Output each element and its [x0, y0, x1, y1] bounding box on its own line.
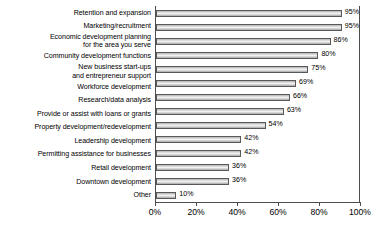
category-label-line: Other [134, 191, 152, 199]
category-label: Community development functions [0, 50, 154, 64]
x-axis-tick [319, 202, 320, 206]
category-label: Permitting assistance for businesses [0, 148, 154, 162]
category-label-line: Downtown development [76, 178, 151, 186]
bar-value-label: 10% [179, 191, 193, 198]
bar-row: 10% [156, 188, 359, 202]
bar-row: 36% [156, 160, 359, 174]
category-label: Research/data analysis [0, 94, 154, 108]
bar-row: 36% [156, 174, 359, 188]
bar [156, 24, 342, 31]
bar-value-label: 75% [311, 65, 325, 72]
category-label: Property development/redevelopment [0, 121, 154, 135]
category-label-line: Leadership development [74, 137, 151, 145]
bar-value-label: 69% [299, 79, 313, 86]
bar-row: 86% [156, 34, 359, 48]
bar-value-label: 63% [287, 107, 301, 114]
bar-row: 95% [156, 6, 359, 20]
bar-value-label: 80% [321, 51, 335, 58]
bar [156, 122, 266, 129]
bar [156, 136, 241, 143]
bar-row: 69% [156, 76, 359, 90]
bar-row: 95% [156, 20, 359, 34]
category-axis-labels: Retention and expansionMarketing/recruit… [0, 6, 154, 202]
category-label: Other [0, 188, 154, 202]
category-label-line: Provide or assist with loans or grants [37, 110, 151, 118]
bar-row: 75% [156, 62, 359, 76]
category-label-line: Retention and expansion [74, 9, 151, 17]
category-label-line: Research/data analysis [78, 96, 151, 104]
category-label-line: and entrepreneur support [72, 72, 151, 80]
bar [156, 38, 331, 45]
x-axis-tick [196, 202, 197, 206]
bar [156, 164, 229, 171]
plot-area: 95%95%86%80%75%69%66%63%54%42%42%36%36%1… [155, 6, 360, 202]
x-axis-tick-label: 0% [149, 207, 161, 218]
category-label-line: New business start-ups [78, 63, 151, 71]
bar-row: 80% [156, 48, 359, 62]
bar-value-label: 36% [232, 163, 246, 170]
category-label-line: Economic development planning [50, 33, 151, 41]
horizontal-bar-chart: Retention and expansionMarketing/recruit… [0, 0, 390, 236]
category-label: New business start-upsand entrepreneur s… [0, 63, 154, 80]
bar-value-label: 42% [244, 149, 258, 156]
bar-value-label: 42% [244, 135, 258, 142]
bar-value-label: 66% [293, 93, 307, 100]
bar [156, 178, 229, 185]
bar-value-label: 36% [232, 177, 246, 184]
bar-row: 42% [156, 146, 359, 160]
category-label: Downtown development [0, 175, 154, 189]
category-label-line: Marketing/recruitment [83, 22, 151, 30]
category-label: Retail development [0, 161, 154, 175]
bar [156, 10, 342, 17]
x-axis-ticks [155, 202, 360, 206]
category-label: Workforce development [0, 80, 154, 94]
x-axis-tick-label: 20% [187, 207, 204, 218]
x-axis-tick [155, 202, 156, 206]
category-label-line: Permitting assistance for businesses [38, 150, 151, 158]
bar-row: 54% [156, 118, 359, 132]
category-label: Provide or assist with loans or grants [0, 107, 154, 121]
bar [156, 192, 176, 199]
bar-value-label: 95% [345, 23, 359, 30]
bar [156, 66, 308, 73]
bar-row: 66% [156, 90, 359, 104]
x-axis-tick-label: 60% [269, 207, 286, 218]
category-label-line: Property development/redevelopment [34, 123, 151, 131]
x-axis-tick-label: 40% [228, 207, 245, 218]
bar-row: 63% [156, 104, 359, 118]
category-label: Marketing/recruitment [0, 20, 154, 34]
bar-value-label: 54% [269, 121, 283, 128]
category-label-line: Workforce development [77, 83, 151, 91]
bar-value-label: 95% [345, 9, 359, 16]
category-label-line: for the area you serve [83, 41, 151, 49]
bar-value-label: 86% [334, 37, 348, 44]
x-axis-tick-label: 80% [310, 207, 327, 218]
bar [156, 52, 318, 59]
bar [156, 108, 284, 115]
bar [156, 94, 290, 101]
category-label: Economic development planningfor the are… [0, 33, 154, 50]
category-label: Leadership development [0, 134, 154, 148]
bar-row: 42% [156, 132, 359, 146]
bar [156, 80, 296, 87]
x-axis-tick [278, 202, 279, 206]
bar [156, 150, 241, 157]
x-axis-tick [237, 202, 238, 206]
x-axis-tick-labels: 0%20%40%60%80%100% [155, 207, 360, 221]
x-axis-tick-label: 100% [349, 207, 371, 218]
x-axis-tick [360, 202, 361, 206]
category-label-line: Retail development [91, 164, 151, 172]
category-label-line: Community development functions [44, 52, 151, 60]
category-label: Retention and expansion [0, 6, 154, 20]
bar-rows: 95%95%86%80%75%69%66%63%54%42%42%36%36%1… [156, 6, 359, 202]
